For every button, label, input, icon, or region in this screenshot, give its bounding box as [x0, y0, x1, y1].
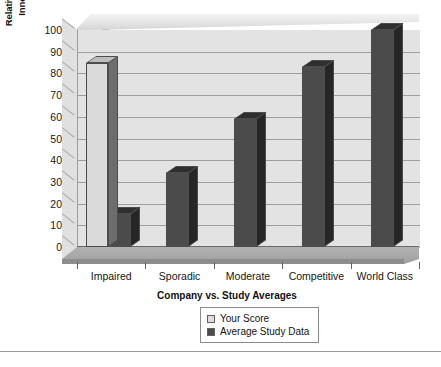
plot-area — [62, 14, 419, 264]
bar-side — [324, 60, 334, 247]
legend-swatch-icon — [207, 315, 215, 323]
bar-side — [108, 56, 118, 247]
x-axis-ticks — [62, 262, 419, 270]
bar-side — [393, 23, 403, 247]
legend-item: Average Study Data — [207, 325, 309, 338]
legend-swatch-icon — [207, 328, 215, 336]
legend-item: Your Score — [207, 312, 309, 325]
x-axis-tick-mark — [351, 262, 352, 269]
bars-layer — [62, 14, 419, 264]
y-axis-tick-labels: 1009080706050403020100 — [36, 17, 62, 258]
x-axis-tick-labels: ImpairedSporadicModerateCompetitiveWorld… — [62, 270, 419, 286]
legend-item-label: Your Score — [220, 313, 269, 324]
x-axis-tick-label: World Class — [357, 270, 413, 282]
x-axis-tick-label: Moderate — [226, 270, 270, 282]
x-axis-tick-label: Impaired — [91, 270, 132, 282]
bar-world-class-average-study-data — [371, 30, 393, 247]
y-axis-tick-label: 100 — [36, 24, 62, 36]
bar-face — [302, 67, 324, 247]
x-axis-tick-mark — [145, 262, 146, 269]
y-axis-tick-label: 80 — [36, 67, 62, 79]
y-axis-tick-label: 60 — [36, 111, 62, 123]
x-axis-tick-mark — [419, 262, 420, 269]
y-axis-title: Relative % Probability of Innovation Suc… — [3, 0, 33, 60]
bar-face — [86, 63, 108, 247]
y-axis-tick-label: 70 — [36, 89, 62, 101]
x-axis-tick-mark — [77, 262, 78, 269]
legend-item-label: Average Study Data — [220, 326, 309, 337]
bar-impaired-your-score — [86, 63, 108, 247]
x-axis-tick-mark — [282, 262, 283, 269]
x-axis-tick-label: Sporadic — [159, 270, 200, 282]
bar-sporadic-average-study-data — [166, 173, 188, 247]
bar-side — [130, 207, 140, 247]
y-axis-tick-label: 50 — [36, 133, 62, 145]
y-axis-tick-label: 20 — [36, 198, 62, 210]
bar-side — [256, 112, 266, 247]
x-axis-tick-label: Competitive — [289, 270, 344, 282]
x-axis-title: Company vs. Study Averages — [62, 290, 392, 301]
y-axis-tick-label: 40 — [36, 154, 62, 166]
bar-competitive-average-study-data — [302, 67, 324, 247]
bar-side — [188, 166, 198, 247]
x-axis-tick-mark — [214, 262, 215, 269]
page-divider — [0, 351, 441, 352]
bar-chart-figure: Relative % Probability of Innovation Suc… — [0, 0, 441, 367]
bar-face — [166, 173, 188, 247]
bar-moderate-average-study-data — [234, 119, 256, 247]
y-axis-tick-label: 0 — [36, 241, 62, 253]
bar-face — [234, 119, 256, 247]
y-axis-tick-label: 90 — [36, 46, 62, 58]
chart-legend: Your ScoreAverage Study Data — [200, 307, 319, 343]
y-axis-tick-label: 10 — [36, 219, 62, 231]
y-axis-tick-label: 30 — [36, 176, 62, 188]
bar-face — [371, 30, 393, 247]
